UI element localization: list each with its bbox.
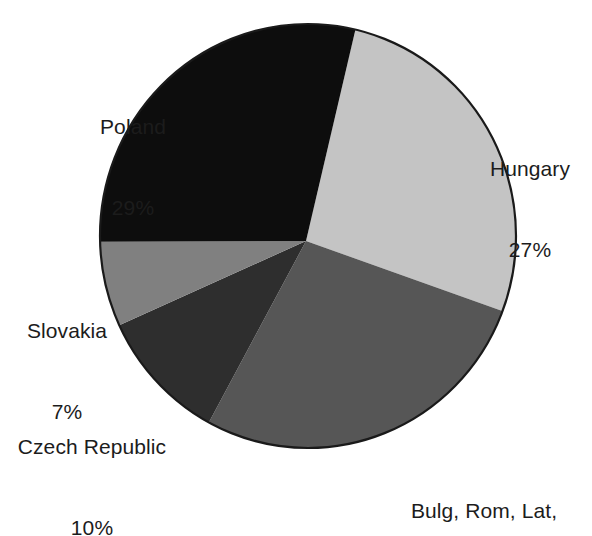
pie-label-poland-value: 29% (58, 194, 208, 221)
pie-label-hungary: Hungary 27% (474, 100, 586, 318)
pie-label-bulg-rom-lat-esto-lith-slov: Bulg, Rom, Lat, Esto, Lith, Slov 27% (384, 442, 584, 536)
pie-label-poland: Poland 29% (58, 58, 208, 276)
pie-label-poland-name: Poland (58, 113, 208, 140)
pie-chart: Poland 29% Hungary 27% Slovakia 7% Czech… (0, 0, 592, 536)
pie-label-bulg-line1: Bulg, Rom, Lat, (384, 497, 584, 524)
pie-label-czech-republic: Czech Republic 10% (6, 378, 178, 536)
pie-label-hungary-value: 27% (474, 236, 586, 263)
pie-label-slovakia-name: Slovakia (8, 317, 126, 344)
pie-label-czech-republic-value: 10% (6, 514, 178, 536)
pie-label-hungary-name: Hungary (474, 155, 586, 182)
pie-label-czech-republic-name: Czech Republic (6, 433, 178, 460)
